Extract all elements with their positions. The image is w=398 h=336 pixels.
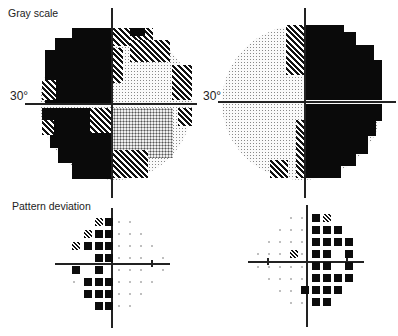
normal-point bbox=[290, 229, 292, 231]
normal-point bbox=[279, 266, 281, 268]
normal-point bbox=[290, 217, 292, 219]
normal-point bbox=[301, 302, 303, 304]
defect-square bbox=[323, 274, 331, 282]
defect-square bbox=[323, 286, 331, 294]
axis-tick bbox=[267, 258, 269, 265]
defect-square bbox=[334, 274, 342, 282]
normal-point bbox=[301, 217, 303, 219]
defect-square bbox=[290, 250, 298, 258]
normal-point bbox=[290, 278, 292, 280]
normal-point bbox=[290, 302, 292, 304]
normal-point bbox=[279, 278, 281, 280]
defect-square bbox=[323, 214, 331, 222]
normal-point bbox=[301, 241, 303, 243]
normal-point bbox=[268, 266, 270, 268]
defect-square bbox=[312, 262, 320, 270]
normal-point bbox=[279, 290, 281, 292]
normal-point bbox=[290, 241, 292, 243]
defect-square bbox=[301, 286, 309, 294]
defect-square bbox=[312, 238, 320, 246]
defect-square bbox=[323, 298, 331, 306]
defect-square bbox=[323, 250, 331, 258]
defect-square bbox=[345, 262, 353, 270]
defect-square bbox=[323, 238, 331, 246]
normal-point bbox=[268, 241, 270, 243]
normal-point bbox=[257, 266, 259, 268]
pattern-deviation-plot-right bbox=[0, 0, 398, 336]
defect-square bbox=[334, 226, 342, 234]
defect-square bbox=[345, 250, 353, 258]
defect-square bbox=[323, 262, 331, 270]
defect-square bbox=[334, 286, 342, 294]
normal-point bbox=[268, 278, 270, 280]
normal-point bbox=[279, 229, 281, 231]
defect-square bbox=[345, 238, 353, 246]
normal-point bbox=[268, 253, 270, 255]
defect-square bbox=[312, 250, 320, 258]
normal-point bbox=[301, 278, 303, 280]
defect-square bbox=[312, 286, 320, 294]
defect-square bbox=[345, 274, 353, 282]
normal-point bbox=[290, 290, 292, 292]
defect-square bbox=[334, 238, 342, 246]
normal-point bbox=[279, 253, 281, 255]
vertical-axis bbox=[306, 205, 308, 327]
normal-point bbox=[301, 266, 303, 268]
defect-square bbox=[312, 274, 320, 282]
normal-point bbox=[257, 253, 259, 255]
normal-point bbox=[279, 241, 281, 243]
normal-point bbox=[301, 229, 303, 231]
normal-point bbox=[301, 253, 303, 255]
defect-square bbox=[312, 298, 320, 306]
defect-square bbox=[312, 226, 320, 234]
defect-square bbox=[312, 214, 320, 222]
defect-square bbox=[323, 226, 331, 234]
normal-point bbox=[290, 266, 292, 268]
